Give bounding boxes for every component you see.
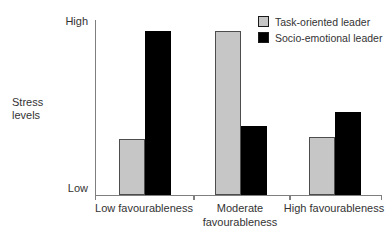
legend: Task-oriented leader Socio-emotional lea… [258,14,382,46]
legend-label-task-oriented: Task-oriented leader [275,16,370,28]
y-axis-tick-label-low: Low [38,182,88,195]
bar-task-oriented-group2 [309,137,335,195]
stress-levels-bar-chart: Stress levels High Low Low favourablenes… [0,0,392,245]
legend-swatch-task-oriented [258,16,269,27]
bar-socio-emotional-group1 [241,126,267,195]
legend-entry-socio-emotional: Socio-emotional leader [258,30,382,45]
x-axis-tick-3 [381,195,383,200]
x-axis-tick-2 [289,195,291,200]
legend-entry-task-oriented: Task-oriented leader [258,14,382,29]
y-axis-tick-label-high: High [38,15,88,28]
x-axis-tick-0 [95,195,97,200]
legend-swatch-socio-emotional [258,32,269,43]
plot-area [95,20,381,196]
x-axis-label-high: High favourableness [279,202,389,216]
y-axis-title: Stress levels [12,96,60,121]
bar-socio-emotional-group0 [145,31,171,195]
bar-task-oriented-group0 [119,139,145,195]
bar-socio-emotional-group2 [335,112,361,195]
bar-task-oriented-group1 [215,31,241,195]
x-axis-label-low: Low favourableness [89,202,199,216]
legend-label-socio-emotional: Socio-emotional leader [275,32,382,44]
x-axis-tick-1 [193,195,195,200]
